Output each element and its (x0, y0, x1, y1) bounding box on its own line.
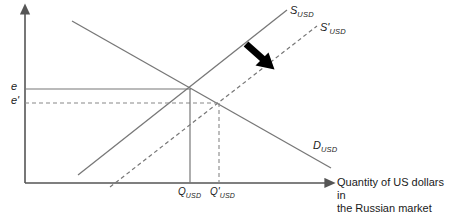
demand-curve-label-sub: USD (321, 145, 337, 154)
demand-curve-label-main: D (313, 139, 321, 151)
demand-curve (72, 21, 331, 168)
supply-curve-shifted-label: S'USD (320, 21, 346, 37)
supply-curve-shifted (110, 26, 317, 187)
x-tick-quantity-new-sub: USD (220, 192, 235, 199)
shift-arrow-icon (246, 44, 275, 70)
supply-curve-label-sub: USD (297, 10, 313, 19)
x-tick-quantity-new: Q'USD (210, 186, 235, 200)
supply-curve-label: SUSD (290, 4, 314, 20)
y-tick-price-new: e' (11, 94, 19, 107)
x-tick-quantity-new-main: Q' (210, 186, 220, 197)
supply-curve-shifted-label-sub: USD (329, 27, 345, 36)
demand-curve-label: DUSD (313, 139, 337, 155)
x-tick-quantity-initial-main: Q (178, 186, 186, 197)
x-tick-quantity-initial: QUSD (178, 186, 201, 200)
x-axis-title-line2: the Russian market (337, 202, 432, 213)
x-tick-quantity-initial-sub: USD (186, 192, 201, 199)
supply-curve (78, 10, 287, 175)
supply-demand-diagram: SUSD S'USD DUSD QUSD Q'USD e e' Quantity… (0, 0, 456, 213)
x-axis-title: Quantity of US dollars in the Russian ma… (337, 176, 452, 213)
x-axis-title-line1: Quantity of US dollars in (337, 176, 444, 201)
y-tick-price-initial: e (11, 80, 17, 93)
